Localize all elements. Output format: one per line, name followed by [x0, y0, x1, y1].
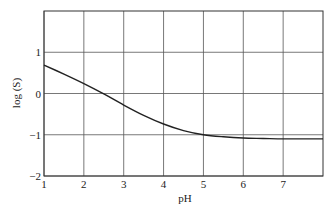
x-tick-label: 4: [161, 178, 167, 190]
y-tick-label: 1: [36, 46, 42, 58]
line-chart: 1234567 −2−101 pH log (S): [0, 0, 334, 212]
x-axis-tick-labels: 1234567: [41, 178, 286, 190]
y-axis-label: log (S): [10, 78, 23, 109]
data-line: [44, 65, 323, 139]
x-axis-label: pH: [178, 192, 192, 204]
x-tick-label: 5: [201, 178, 207, 190]
x-tick-label: 3: [121, 178, 127, 190]
y-tick-label: −2: [29, 170, 41, 182]
x-tick-label: 2: [81, 178, 87, 190]
y-tick-label: 0: [36, 88, 42, 100]
x-tick-label: 6: [241, 178, 247, 190]
x-tick-label: 1: [41, 178, 47, 190]
y-tick-label: −1: [29, 129, 41, 141]
y-axis-tick-labels: −2−101: [29, 46, 41, 182]
x-tick-label: 7: [280, 178, 286, 190]
grid-lines: [44, 11, 323, 176]
